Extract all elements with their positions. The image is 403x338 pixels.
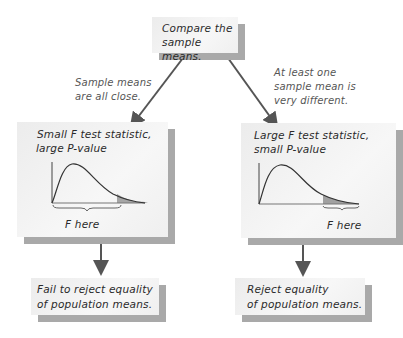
right-branch-note-line1: At least one [274,66,336,79]
left-branch-note-line2: are all close. [75,90,141,103]
reject-equality-line1: Reject equality [247,282,329,296]
right-branch-note-line3: very different. [274,94,348,107]
small-f-axis-label: F here [65,217,99,231]
fail-to-reject-line2: of population means. [37,297,152,311]
fail-to-reject-line1: Fail to reject equality [37,282,153,296]
compare-means-line1: Compare the [162,21,233,35]
left-branch-note-line1: Sample means [75,76,152,89]
large-f-box: Large F test statistic, small P-value F … [241,123,396,238]
fail-to-reject-box: Fail to reject equality of population me… [31,278,159,315]
reject-equality-box: Reject equality of population means. [235,278,365,315]
large-f-distribution-plot [241,123,396,238]
small-f-box: Small F test statistic, large P-value F … [17,122,168,237]
right-branch-note-line2: sample mean is [274,80,356,93]
arrow-to-right-box [228,58,276,125]
compare-means-line2: sample means. [162,35,238,63]
compare-means-box: Compare the sample means. [152,17,238,53]
reject-equality-line2: of population means. [247,297,362,311]
large-f-axis-label: F here [327,218,361,232]
